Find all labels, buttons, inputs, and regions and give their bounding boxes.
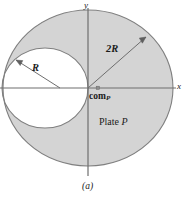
- com-text: com: [89, 91, 106, 101]
- hole-radius-label: R: [32, 63, 39, 74]
- y-axis-label: y: [84, 1, 88, 10]
- plate-label: Plate P: [99, 117, 128, 127]
- center-of-mass-label: comP: [89, 92, 110, 102]
- radius-r-arrowhead: [16, 60, 23, 66]
- plate-symbol: P: [122, 116, 128, 127]
- figure-container: y x 2R R comP Plate P (a): [0, 0, 188, 199]
- x-axis-label: x: [177, 82, 181, 91]
- center-of-mass-marker-icon: [96, 86, 99, 89]
- outer-radius-label: 2R: [106, 44, 118, 55]
- plate-text: Plate: [99, 116, 122, 127]
- com-subscript: P: [106, 94, 110, 102]
- figure-caption: (a): [82, 182, 93, 192]
